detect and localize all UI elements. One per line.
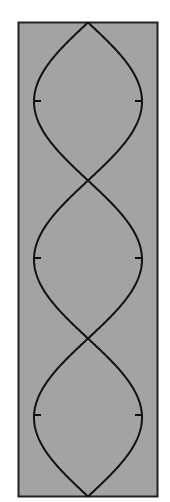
diagram-frame — [19, 23, 158, 497]
standing-wave-diagram — [0, 0, 170, 502]
